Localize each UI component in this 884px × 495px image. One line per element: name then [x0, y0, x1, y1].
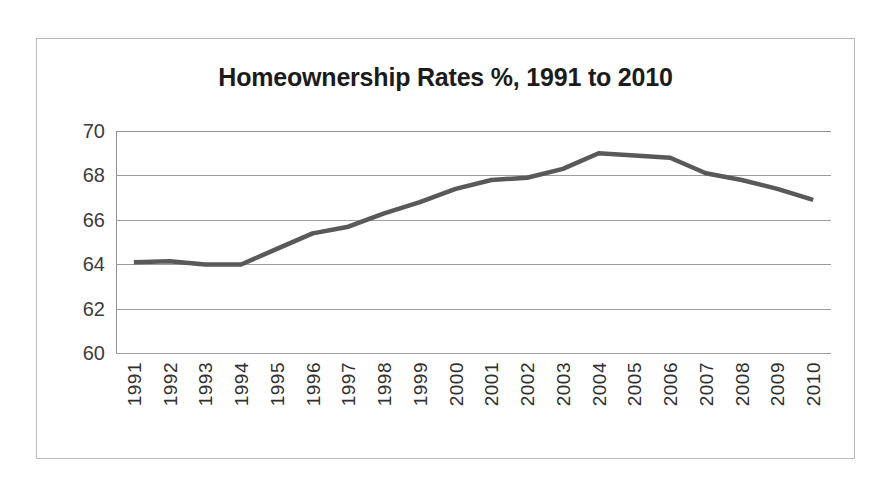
x-tick-label-1994: 1994	[231, 362, 253, 406]
x-tick-label-1996: 1996	[303, 362, 325, 406]
x-tick-label-2002: 2002	[517, 362, 539, 406]
gridline-60	[116, 353, 831, 354]
x-tick-label-2006: 2006	[660, 362, 682, 406]
y-tick-label-62: 62	[83, 297, 105, 320]
x-tick-label-2005: 2005	[624, 362, 646, 406]
y-tick-label-60: 60	[83, 342, 105, 365]
x-tick-label-1997: 1997	[338, 362, 360, 406]
series-line	[134, 153, 813, 264]
chart-title: Homeownership Rates %, 1991 to 2010	[37, 63, 854, 92]
x-tick-label-1998: 1998	[374, 362, 396, 406]
x-tick-label-1993: 1993	[195, 362, 217, 406]
x-tick-label-1995: 1995	[267, 362, 289, 406]
x-tick-label-2009: 2009	[767, 362, 789, 406]
x-tick-label-2007: 2007	[696, 362, 718, 406]
y-tick-label-68: 68	[83, 164, 105, 187]
x-tick-label-1991: 1991	[124, 362, 146, 406]
x-tick-label-1992: 1992	[160, 362, 182, 406]
x-tick-label-1999: 1999	[410, 362, 432, 406]
x-tick-label-2001: 2001	[481, 362, 503, 406]
chart-frame: Homeownership Rates %, 1991 to 2010 6062…	[36, 38, 855, 459]
chart-page: Homeownership Rates %, 1991 to 2010 6062…	[0, 0, 884, 495]
x-tick-label-2003: 2003	[553, 362, 575, 406]
line-series-homeownership-rate	[116, 131, 831, 354]
y-tick-label-66: 66	[83, 208, 105, 231]
x-tick-label-2004: 2004	[589, 362, 611, 406]
x-tick-label-2010: 2010	[803, 362, 825, 406]
plot-area: 606264666870 199119921993199419951996199…	[116, 131, 831, 354]
y-tick-label-70: 70	[83, 119, 105, 142]
x-tick-label-2000: 2000	[446, 362, 468, 406]
y-tick-label-64: 64	[83, 253, 105, 276]
x-tick-label-2008: 2008	[732, 362, 754, 406]
